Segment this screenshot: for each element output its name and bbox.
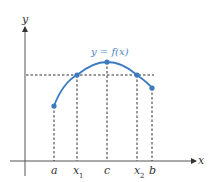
y-axis-label: y: [21, 13, 29, 26]
tick-sub-x1: 1: [79, 172, 83, 180]
tick-label-b: b: [149, 164, 156, 177]
tick-sub-x2: 2: [140, 172, 144, 180]
point-x2: [134, 72, 139, 77]
point-x1: [74, 72, 79, 77]
tick-label-c: c: [104, 164, 110, 177]
tick-label-a: a: [51, 164, 58, 177]
point-b: [149, 85, 154, 90]
point-c: [104, 59, 109, 64]
diagram-canvas: x y y = f(x) a x 1 c x 2 b: [0, 0, 209, 182]
x-axis-label: x: [198, 154, 205, 167]
point-a: [51, 103, 56, 108]
curve-label: y = f(x): [90, 46, 129, 57]
